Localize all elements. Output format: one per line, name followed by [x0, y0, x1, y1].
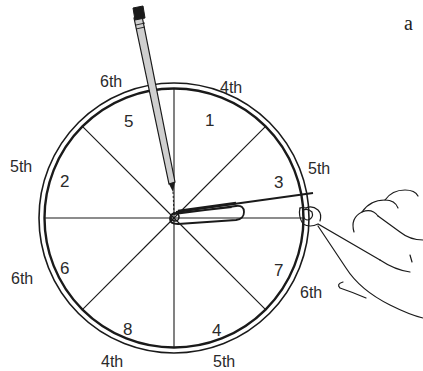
ordinal-label: 5th	[213, 353, 235, 370]
ordinal-label: 5th	[308, 160, 330, 177]
ordinal-label: 6th	[300, 284, 322, 301]
sector-dividers	[45, 89, 304, 348]
pencil-icon	[133, 6, 175, 213]
sector-number: 6	[60, 259, 69, 278]
sector-number: 8	[123, 320, 132, 339]
sector-number: 1	[205, 111, 214, 130]
ordinal-label: 6th	[100, 73, 122, 90]
panel-label: a	[404, 12, 413, 34]
ordinal-label: 5th	[10, 158, 32, 175]
sector-number: 7	[274, 261, 283, 280]
paperclip-icon[interactable]	[170, 193, 313, 224]
sector-number: 4	[212, 321, 221, 340]
ordinal-label: 6th	[11, 270, 33, 287]
sector-number: 2	[60, 172, 69, 191]
spinner-diagram: a 1 3 7 4 8 6 2 5	[0, 0, 423, 371]
figure-stage: a 1 3 7 4 8 6 2 5	[0, 0, 423, 371]
ordinal-label: 4th	[220, 79, 242, 96]
sector-number: 3	[274, 173, 283, 192]
ordinal-label: 4th	[101, 353, 123, 370]
sector-number: 5	[124, 112, 133, 131]
sector-numbers: 1 3 7 4 8 6 2 5	[60, 111, 283, 340]
